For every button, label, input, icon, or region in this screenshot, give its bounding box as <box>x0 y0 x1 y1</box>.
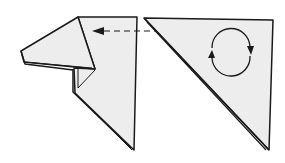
left-figure-dog-head <box>21 17 137 150</box>
origami-diagram <box>0 0 285 163</box>
right-figure-triangle <box>144 18 273 150</box>
diagram-canvas <box>0 0 285 163</box>
